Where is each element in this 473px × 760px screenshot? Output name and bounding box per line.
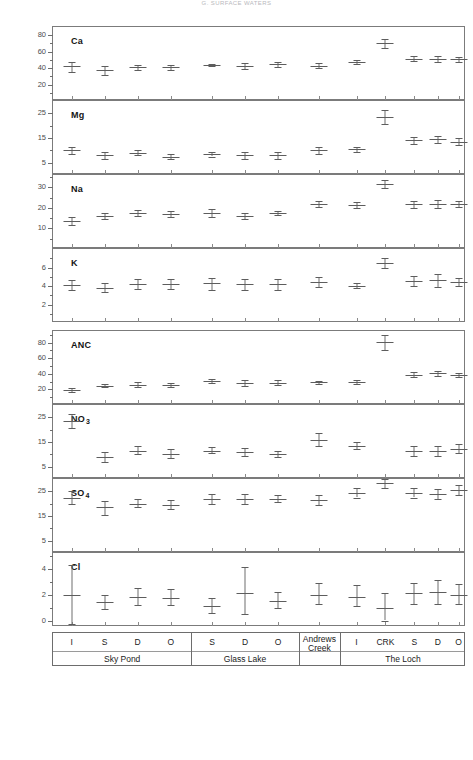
y-minor-tick: [50, 277, 53, 278]
errorbar-mean-marker: [129, 504, 146, 505]
errorbar-cap-upper: [382, 180, 389, 181]
errorbar-cap-lower: [209, 217, 216, 218]
data-point-errorbar: [269, 553, 287, 627]
y-axis-label: 25: [20, 487, 46, 495]
errorbar-mean-marker: [429, 373, 446, 374]
errorbar-mean-marker: [406, 281, 423, 282]
errorbar-cap-lower: [134, 155, 141, 156]
x-axis-code-label: O: [439, 638, 473, 647]
errorbar-cap-lower: [167, 605, 174, 606]
errorbar-mean-marker: [162, 284, 179, 285]
data-point-errorbar: [269, 27, 287, 101]
errorbar-cap-upper: [68, 388, 75, 389]
data-point-errorbar: [376, 249, 394, 323]
y-axis-label: 15: [20, 134, 46, 142]
errorbar-cap-lower: [316, 604, 323, 605]
data-point-errorbar: [348, 405, 366, 479]
errorbar-cap-lower: [382, 124, 389, 125]
y-minor-tick: [50, 430, 53, 431]
errorbar-cap-lower: [101, 462, 108, 463]
errorbar-cap-lower: [275, 385, 282, 386]
errorbar-cap-upper: [353, 202, 360, 203]
data-point-errorbar: [236, 249, 254, 323]
y-major-tick: [48, 358, 53, 359]
y-axis-label: 25: [20, 109, 46, 117]
y-axis-label: 2: [20, 591, 46, 599]
errorbar-mean-marker: [162, 598, 179, 599]
data-point-errorbar: [429, 175, 447, 249]
errorbar-cap-upper: [101, 213, 108, 214]
errorbar-cap-lower: [167, 289, 174, 290]
errorbar-cap-upper: [101, 595, 108, 596]
data-point-errorbar: [269, 331, 287, 405]
errorbar-cap-upper: [353, 488, 360, 489]
data-point-errorbar: [310, 553, 328, 627]
errorbar-cap-upper: [167, 65, 174, 66]
errorbar-mean-marker: [237, 593, 254, 594]
errorbar-mean-marker: [450, 595, 467, 596]
y-minor-tick: [50, 43, 53, 44]
y-axis-label: 30: [20, 183, 46, 191]
errorbar-cap-upper: [455, 444, 462, 445]
y-major-tick: [48, 389, 53, 390]
data-point-errorbar: [96, 101, 114, 175]
data-point-errorbar: [129, 553, 147, 627]
errorbar-cap-lower: [434, 499, 441, 500]
y-minor-tick: [50, 295, 53, 296]
errorbar-cap-lower: [242, 290, 249, 291]
errorbar-cap-upper: [455, 373, 462, 374]
errorbar-mean-marker: [406, 204, 423, 205]
data-point-errorbar: [405, 553, 423, 627]
errorbar-mean-marker: [377, 184, 394, 185]
errorbar-cap-lower: [167, 70, 174, 71]
errorbar-cap-lower: [68, 290, 75, 291]
errorbar-whisker: [356, 585, 357, 606]
errorbar-cap-upper: [242, 213, 249, 214]
errorbar-cap-upper: [411, 137, 418, 138]
panel-k: K246: [52, 248, 465, 322]
errorbar-cap-upper: [434, 580, 441, 581]
errorbar-mean-marker: [162, 505, 179, 506]
errorbar-cap-lower: [411, 498, 418, 499]
errorbar-whisker: [278, 592, 279, 608]
data-point-errorbar: [405, 331, 423, 405]
errorbar-cap-lower: [68, 72, 75, 73]
errorbar-cap-lower: [316, 505, 323, 506]
data-point-errorbar: [96, 331, 114, 405]
y-axis-label: 80: [20, 31, 46, 39]
errorbar-cap-upper: [455, 201, 462, 202]
errorbar-cap-upper: [455, 485, 462, 486]
errorbar-cap-lower: [411, 286, 418, 287]
errorbar-mean-marker: [63, 421, 80, 422]
data-point-errorbar: [96, 405, 114, 479]
errorbar-mean-marker: [311, 440, 328, 441]
errorbar-cap-lower: [411, 61, 418, 62]
y-minor-tick: [50, 382, 53, 383]
data-point-errorbar: [405, 175, 423, 249]
errorbar-mean-marker: [237, 66, 254, 67]
errorbar-cap-upper: [134, 210, 141, 211]
errorbar-cap-lower: [455, 453, 462, 454]
errorbar-cap-lower: [382, 621, 389, 622]
errorbar-cap-upper: [101, 384, 108, 385]
errorbar-cap-lower: [316, 207, 323, 208]
errorbar-mean-marker: [377, 117, 394, 118]
errorbar-cap-lower: [455, 604, 462, 605]
errorbar-cap-lower: [455, 62, 462, 63]
errorbar-mean-marker: [429, 139, 446, 140]
y-minor-tick: [50, 258, 53, 259]
errorbar-mean-marker: [450, 375, 467, 376]
errorbar-cap-lower: [275, 457, 282, 458]
data-point-errorbar: [129, 479, 147, 553]
data-point-errorbar: [236, 405, 254, 479]
errorbar-cap-lower: [167, 159, 174, 160]
errorbar-mean-marker: [204, 499, 221, 500]
errorbar-mean-marker: [162, 454, 179, 455]
errorbar-cap-lower: [455, 495, 462, 496]
errorbar-mean-marker: [348, 493, 365, 494]
y-axis-label: 10: [20, 224, 46, 232]
errorbar-cap-upper: [167, 449, 174, 450]
data-point-errorbar: [236, 331, 254, 405]
y-minor-tick: [50, 335, 53, 336]
errorbar-mean-marker: [162, 157, 179, 158]
